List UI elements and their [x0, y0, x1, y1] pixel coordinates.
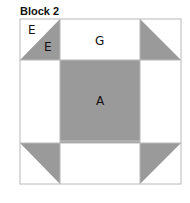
label-g: G [95, 34, 104, 48]
corner-triangle-bottom-left [20, 143, 60, 184]
corner-triangle-bottom-right [140, 143, 181, 184]
corner-triangle-top-right [140, 19, 181, 60]
label-a: A [96, 94, 104, 108]
piece-e-gray [20, 19, 60, 60]
label-e-white: E [28, 23, 36, 37]
label-e-gray: E [44, 40, 52, 54]
